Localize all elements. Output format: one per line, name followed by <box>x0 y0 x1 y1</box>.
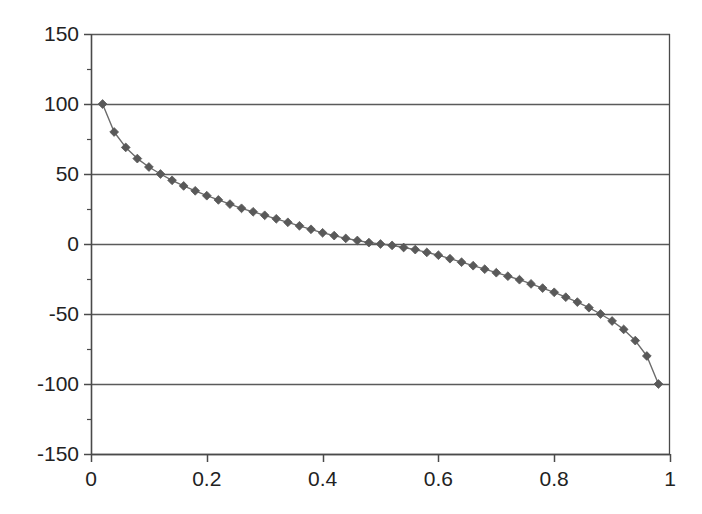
y-axis-tick-label: 0 <box>67 232 79 256</box>
chart-plot-svg <box>0 0 702 514</box>
data-point-marker <box>422 248 431 257</box>
x-axis-tick-label: 0 <box>85 467 97 491</box>
data-point-marker <box>168 176 177 185</box>
data-point-marker <box>503 272 512 281</box>
data-point-marker <box>318 228 327 237</box>
x-axis-tick-label: 0.2 <box>192 467 221 491</box>
data-point-marker <box>341 234 350 243</box>
data-point-marker <box>596 310 605 319</box>
data-point-marker <box>480 265 489 274</box>
data-point-marker <box>214 196 223 205</box>
data-point-marker <box>330 231 339 240</box>
data-point-marker <box>585 303 594 312</box>
data-point-marker <box>492 268 501 277</box>
data-point-marker <box>538 284 547 293</box>
data-point-marker <box>260 211 269 220</box>
y-axis-tick-label: -100 <box>37 372 79 396</box>
data-point-marker <box>283 218 292 227</box>
y-axis-tick-label: 150 <box>44 22 79 46</box>
x-axis-tick-label: 0.6 <box>424 467 453 491</box>
y-axis-tick-label: 100 <box>44 92 79 116</box>
x-axis-tick-label: 0.8 <box>540 467 569 491</box>
data-point-marker <box>457 258 466 267</box>
data-point-marker <box>237 204 246 213</box>
data-point-marker <box>446 254 455 263</box>
data-point-marker <box>527 280 536 289</box>
data-point-marker <box>376 240 385 249</box>
data-point-marker <box>654 380 663 389</box>
x-axis-tick-label: 0.4 <box>308 467 337 491</box>
data-point-marker <box>98 100 107 109</box>
data-point-marker <box>411 245 420 254</box>
data-point-marker <box>226 200 235 209</box>
data-point-marker <box>469 261 478 270</box>
data-point-marker <box>434 251 443 260</box>
data-point-marker <box>561 293 570 302</box>
data-point-marker <box>550 288 559 297</box>
data-point-marker <box>353 236 362 245</box>
data-point-marker <box>295 221 304 230</box>
data-point-marker <box>573 298 582 307</box>
data-point-marker <box>249 207 258 216</box>
data-point-marker <box>179 182 188 191</box>
x-axis-tick-label: 1 <box>664 467 676 491</box>
data-point-marker <box>307 225 316 234</box>
data-point-marker <box>156 170 165 179</box>
data-point-marker <box>365 238 374 247</box>
data-point-marker <box>515 275 524 284</box>
data-point-marker <box>388 241 397 250</box>
data-point-marker <box>191 186 200 195</box>
y-axis-tick-label: 50 <box>56 162 79 186</box>
y-axis-tick-label: -50 <box>49 302 79 326</box>
chart-container: 150100500-50-100-15000.20.40.60.81 <box>0 0 702 514</box>
data-point-marker <box>202 191 211 200</box>
y-axis-tick-label: -150 <box>37 442 79 466</box>
data-point-marker <box>272 214 281 223</box>
